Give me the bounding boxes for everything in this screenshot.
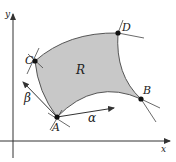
region-label: R bbox=[75, 63, 85, 77]
point-a bbox=[54, 114, 59, 119]
point-d bbox=[115, 30, 120, 35]
beta-label: β bbox=[23, 91, 31, 105]
point-d-label: D bbox=[121, 21, 131, 34]
point-c-label: C bbox=[25, 54, 34, 67]
point-b-label: B bbox=[142, 84, 151, 97]
y-axis-label: y bbox=[4, 9, 11, 19]
point-b bbox=[138, 96, 143, 101]
alpha-label: α bbox=[88, 111, 96, 125]
diagram-svg: y x R A B C D α β bbox=[0, 0, 176, 162]
point-a-label: A bbox=[51, 121, 60, 134]
x-axis-label: x bbox=[161, 144, 166, 154]
region-r bbox=[35, 33, 141, 117]
diagram-canvas: y x R A B C D α β bbox=[0, 0, 176, 162]
